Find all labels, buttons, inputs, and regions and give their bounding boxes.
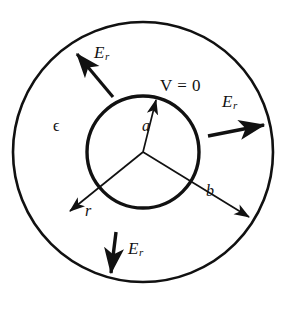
figure-container: Er Er Er V = 0 ϵ a b r [0,0,288,313]
field-symbol: E [94,43,104,62]
outer-radius-label: b [206,183,214,199]
radius-line-r [70,152,143,211]
field-subscript: r [233,99,237,111]
field-symbol: E [128,239,138,258]
field-arrow-bottom [111,232,116,273]
diagram-canvas [0,0,288,313]
field-subscript: r [139,246,143,258]
field-symbol: E [222,92,232,111]
field-subscript: r [105,50,109,62]
field-label-bottom: Er [128,240,143,258]
field-arrow-right [208,125,264,136]
inner-radius-label: a [142,118,150,134]
field-label-upper-left: Er [94,44,109,62]
radial-coordinate-label: r [85,203,91,219]
potential-label: V = 0 [160,77,201,94]
permittivity-label: ϵ [53,118,59,134]
field-label-right: Er [222,93,237,111]
